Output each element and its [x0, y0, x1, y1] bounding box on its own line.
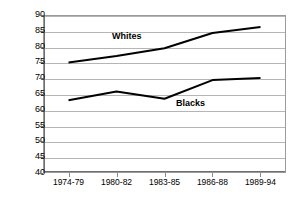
series-line-whites — [69, 27, 261, 62]
y-axis-tick-mark — [39, 173, 43, 174]
x-axis-tick-label: 1974-79 — [53, 178, 84, 187]
x-axis-tick-mark — [69, 173, 70, 177]
x-axis-tick-label: 1980-82 — [101, 178, 132, 187]
series-label-blacks: Blacks — [176, 98, 205, 108]
series-label-whites: Whites — [112, 31, 142, 41]
series-lines — [43, 15, 286, 173]
x-axis-tick-mark — [117, 173, 118, 177]
x-axis-tick-mark — [165, 173, 166, 177]
series-line-blacks — [69, 78, 261, 100]
line-chart: 4045505560657075808590 1974-791980-82198… — [0, 0, 296, 204]
x-axis-tick-mark — [260, 173, 261, 177]
x-axis-tick-label: 1983-85 — [149, 178, 180, 187]
x-axis-tick-mark — [212, 173, 213, 177]
x-axis-tick-label: 1986-88 — [197, 178, 228, 187]
x-axis-tick-label: 1989-94 — [245, 178, 276, 187]
